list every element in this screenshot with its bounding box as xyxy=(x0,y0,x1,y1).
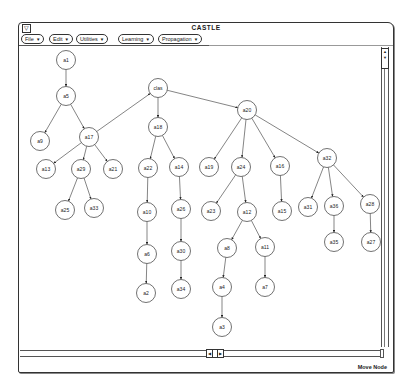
node-a7[interactable]: a7 xyxy=(256,278,275,297)
edge-a18-a14 xyxy=(162,135,174,158)
nodes-layer: a1a5a9a17a13a29a21a25a33clasa18a22a14a10… xyxy=(31,51,381,337)
node-a5[interactable]: a5 xyxy=(57,87,76,106)
node-a35[interactable]: a35 xyxy=(325,233,344,252)
node-label: a4 xyxy=(219,284,225,290)
node-a28[interactable]: a28 xyxy=(361,195,380,214)
dropdown-arrow-icon: ▼ xyxy=(36,37,40,42)
edge-a17-clas xyxy=(97,94,151,132)
node-a18[interactable]: a18 xyxy=(149,118,168,137)
edge-a24-a12 xyxy=(242,176,245,202)
dropdown-arrow-icon: ▼ xyxy=(145,37,149,42)
node-a8[interactable]: a8 xyxy=(218,239,237,258)
edge-a16-a15 xyxy=(280,175,281,201)
node-label: clas xyxy=(154,85,163,91)
menu-propagation[interactable]: Propagation▼ xyxy=(158,34,202,44)
node-a15[interactable]: a15 xyxy=(273,202,292,221)
network-graph[interactable]: a1a5a9a17a13a29a21a25a33clasa18a22a14a10… xyxy=(19,46,381,349)
menu-edit[interactable]: Edit▼ xyxy=(49,34,73,44)
edge-clas-a20 xyxy=(167,90,238,107)
node-label: a33 xyxy=(90,205,99,211)
dropdown-arrow-icon: ▼ xyxy=(100,37,104,42)
node-a17[interactable]: a17 xyxy=(80,128,99,147)
node-label: a21 xyxy=(109,166,118,172)
node-label: a22 xyxy=(144,165,153,171)
node-label: a13 xyxy=(42,166,51,172)
node-label: a10 xyxy=(143,209,152,215)
node-label: a17 xyxy=(85,134,94,140)
status-mode: Move Node xyxy=(358,364,387,370)
node-a25[interactable]: a25 xyxy=(56,201,75,220)
node-a22[interactable]: a22 xyxy=(139,159,158,178)
scroll-right-icon[interactable]: ▶ xyxy=(218,350,223,357)
vertical-scrollbar[interactable]: ▲ ▼ xyxy=(381,47,389,347)
node-label: a23 xyxy=(207,208,216,214)
scroll-down-icon[interactable]: ▼ xyxy=(382,55,388,61)
node-a10[interactable]: a10 xyxy=(138,203,157,222)
node-clas[interactable]: clas xyxy=(149,79,168,98)
edge-a28-a27 xyxy=(370,213,371,232)
node-label: a18 xyxy=(154,124,163,130)
edge-a8-a4 xyxy=(223,257,226,277)
edge-a32-a28 xyxy=(333,165,363,197)
menu-learning-label: Learning xyxy=(122,36,143,42)
node-label: a8 xyxy=(224,245,230,251)
scrollbar-corner xyxy=(380,349,384,358)
node-label: a31 xyxy=(304,204,313,210)
node-label: a5 xyxy=(63,93,69,99)
node-label: a1 xyxy=(63,57,69,63)
node-a23[interactable]: a23 xyxy=(202,202,221,221)
node-a1[interactable]: a1 xyxy=(57,51,76,70)
node-a31[interactable]: a31 xyxy=(299,198,318,217)
menu-utilities-label: Utilities xyxy=(80,36,98,42)
window-title: CASTLE xyxy=(19,23,393,33)
vertical-scroll-thumb[interactable]: ▲ ▼ xyxy=(381,48,389,69)
node-a12[interactable]: a12 xyxy=(238,203,257,222)
node-label: a25 xyxy=(61,207,70,213)
node-a33[interactable]: a33 xyxy=(85,199,104,218)
menu-edit-label: Edit xyxy=(53,36,62,42)
horizontal-scroll-thumb[interactable]: ◀ ▶ xyxy=(206,349,224,358)
dropdown-arrow-icon: ▼ xyxy=(194,37,198,42)
node-a24[interactable]: a24 xyxy=(232,158,251,177)
edge-a29-a25 xyxy=(68,178,77,201)
node-label: a3 xyxy=(219,324,225,330)
menu-propagation-label: Propagation xyxy=(162,36,192,42)
node-a11[interactable]: a11 xyxy=(256,238,275,257)
node-a29[interactable]: a29 xyxy=(72,160,91,179)
node-a30[interactable]: a30 xyxy=(172,242,191,261)
node-a20[interactable]: a20 xyxy=(238,101,257,120)
node-a14[interactable]: a14 xyxy=(170,158,189,177)
node-a32[interactable]: a32 xyxy=(318,149,337,168)
node-a26[interactable]: a26 xyxy=(172,200,191,219)
node-a3[interactable]: a3 xyxy=(213,318,232,337)
node-a6[interactable]: a6 xyxy=(138,245,157,264)
menu-file[interactable]: File▼ xyxy=(21,34,44,44)
node-a9[interactable]: a9 xyxy=(31,132,50,151)
edge-a24-a23 xyxy=(216,175,235,203)
node-a2[interactable]: a2 xyxy=(137,284,156,303)
node-label: a9 xyxy=(37,138,43,144)
node-label: a30 xyxy=(177,248,186,254)
graph-canvas[interactable]: a1a5a9a17a13a29a21a25a33clasa18a22a14a10… xyxy=(19,46,381,349)
node-a16[interactable]: a16 xyxy=(271,157,290,176)
node-a27[interactable]: a27 xyxy=(362,233,381,252)
node-label: a34 xyxy=(177,286,186,292)
node-a13[interactable]: a13 xyxy=(37,160,56,179)
edge-a20-a19 xyxy=(214,118,241,159)
menu-learning[interactable]: Learning▼ xyxy=(118,34,154,44)
scroll-thumb-grip[interactable] xyxy=(212,350,219,357)
edge-a32-a36 xyxy=(328,167,332,196)
horizontal-scrollbar[interactable]: ◀ ▶ xyxy=(20,350,381,357)
node-a4[interactable]: a4 xyxy=(213,278,232,297)
node-label: a20 xyxy=(243,107,252,113)
node-a21[interactable]: a21 xyxy=(104,160,123,179)
node-a19[interactable]: a19 xyxy=(200,158,219,177)
edge-a22-a10 xyxy=(147,177,148,202)
menu-utilities[interactable]: Utilities▼ xyxy=(76,34,108,44)
node-label: a19 xyxy=(205,164,214,170)
node-label: a12 xyxy=(243,209,252,215)
edge-a12-a11 xyxy=(251,220,260,238)
node-a34[interactable]: a34 xyxy=(172,280,191,299)
node-a36[interactable]: a36 xyxy=(325,197,344,216)
node-label: a27 xyxy=(367,239,376,245)
